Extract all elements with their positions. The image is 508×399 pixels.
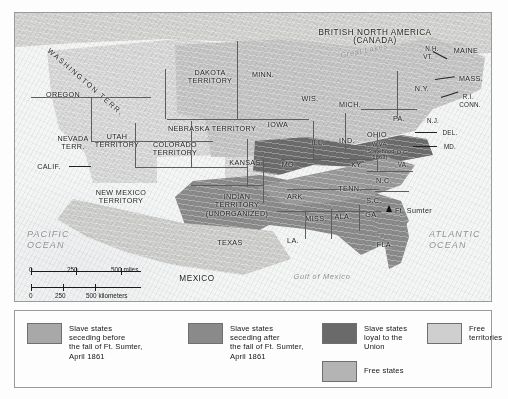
scale-bar: 0 250 500 miles 0 250 500 kilometers [27,268,145,301]
label-florida: FLA. [373,241,397,249]
label-virginia: VA. [393,161,413,168]
label-iowa: IOWA [263,121,293,129]
legend-label-loyal-to-union: Slave states loyal to the Union [364,323,407,352]
label-north-carolina: N.C. [373,177,395,185]
label-delaware: DEL. [439,129,461,136]
border-line [367,171,413,172]
border-line [165,69,166,119]
label-new-york: N.Y. [411,85,433,93]
legend-item-free-territories: Free territories [427,323,497,344]
label-wisconsin: WIS. [297,95,323,103]
label-dakota-territory: DAKOTA TERRITORY [181,69,239,86]
label-arkansas: ARK. [281,193,311,201]
legend-swatch-free-territories [427,323,462,344]
label-oregon: OREGON [37,91,89,99]
border-line [359,205,360,231]
label-kentucky: KY. [345,161,369,169]
legend-label-seceding-after: Slave states seceding after the fall of … [230,323,304,361]
legend-box: Slave states seceding before the fall of… [14,310,492,388]
label-new-mexico-territory: NEW MEXICO TERRITORY [85,189,157,206]
label-gulf-of-mexico: Gulf of Mexico [277,271,367,282]
legend-swatch-loyal-to-union [322,323,357,344]
label-illinois: ILL. [307,139,329,147]
label-utah-territory: UTAH TERRITORY [91,133,143,150]
legend-swatch-seceding-before [27,323,62,344]
label-atlantic-ocean: ATLANTIC OCEAN [429,229,492,251]
label-south-carolina: S.C. [363,197,385,205]
label-massachusetts: MASS. [455,75,487,83]
scale-rule [31,287,141,288]
label-alabama: ALA. [329,213,357,221]
legend-label-seceding-before: Slave states seceding before the fall of… [69,323,143,361]
label-nebraska-territory: NEBRASKA TERRITORY [157,125,267,133]
california-leader-line [69,166,91,167]
label-pennsylvania: PA. [389,115,409,123]
label-indiana: IND. [335,137,359,145]
label-california: CALIF. [31,163,67,171]
label-georgia: GA. [361,211,383,219]
scale-tick [95,284,96,291]
label-missouri: MO. [277,161,301,169]
label-texas: TEXAS [207,239,253,247]
label-michigan: MICH. [335,101,365,109]
border-line [397,71,398,119]
scale-miles-0: 0 [29,266,33,273]
label-minnesota: MINN. [247,71,279,79]
scale-miles-250: 250 [67,266,78,273]
label-rhode-island: R.I. [459,93,477,100]
border-line [361,109,417,110]
scale-tick [63,284,64,291]
label-mississippi: MISS. [301,215,331,223]
scale-km-250: 250 [55,292,66,299]
fort-sumter-marker [386,205,392,212]
maryland-leader-line [413,146,437,147]
label-colorado-territory: COLORADO TERRITORY [147,141,203,158]
label-nevada-territory: NEVADA TERR. [51,135,95,152]
border-line [375,191,409,192]
label-district-of-columbia: D.C. [393,149,413,156]
scale-miles-500: 500 miles [111,266,138,273]
label-pacific-ocean: PACIFIC OCEAN [27,229,93,251]
scale-km-500: 500 kilometers [86,292,128,299]
delaware-leader-line [415,132,437,133]
legend-label-free-territories: Free territories [469,323,502,342]
label-ohio: OHIO [363,131,391,139]
label-vermont: VT. [419,53,437,60]
border-line [191,185,263,186]
legend-item-free-states: Free states [322,361,442,382]
label-maine: MAINE [449,47,483,55]
label-connecticut: CONN. [455,101,485,108]
label-tennessee: TENN. [333,185,367,193]
legend-item-slave-states-seceding-before: Slave states seceding before the fall of… [27,323,187,361]
legend-label-free-states: Free states [364,361,404,375]
map-frame: BRITISH NORTH AMERICA (CANADA) MEXICO PA… [14,12,492,302]
map-page: BRITISH NORTH AMERICA (CANADA) MEXICO PA… [0,0,508,399]
legend-swatch-seceding-after [188,323,223,344]
scale-km-0: 0 [29,292,33,299]
label-fort-sumter: Ft. Sumter [395,207,439,215]
legend-item-slave-states-loyal-to-union: Slave states loyal to the Union [322,323,442,352]
legend-swatch-free-states [322,361,357,382]
label-maryland: MD. [439,143,461,150]
label-indian-territory: INDIAN TERRITORY (UNORGANIZED) [205,193,269,218]
scale-tick [31,284,32,291]
label-kansas: KANSAS [221,159,269,167]
scale-km-bar [27,284,145,291]
label-mexico: MEXICO [167,275,227,283]
label-new-jersey: N.J. [423,117,443,124]
label-louisiana: LA. [283,237,303,245]
